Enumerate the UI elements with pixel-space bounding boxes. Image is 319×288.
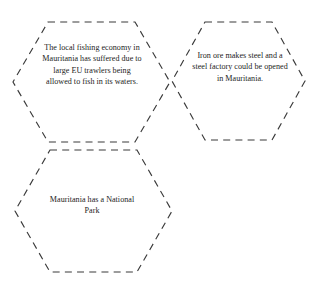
fishing-economy-hexagon-outline[interactable] (13, 22, 170, 142)
iron-ore-steel-hexagon-outline[interactable] (172, 22, 305, 140)
hexagon-outlines-layer (0, 0, 319, 288)
diagram-canvas: The local fishing economy in Mauritania … (0, 0, 319, 288)
national-park-hexagon-outline[interactable] (15, 150, 172, 272)
